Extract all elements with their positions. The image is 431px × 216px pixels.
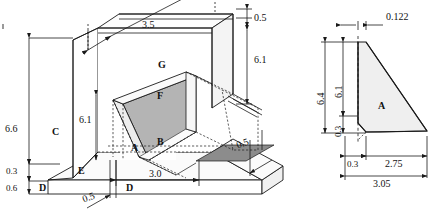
scan-artifact: [2, 24, 4, 29]
side-dim-6_4: 6.4: [316, 93, 326, 106]
iso-dim-3_5: 3.5: [142, 20, 155, 30]
iso-face-label-A: A: [131, 143, 138, 153]
side-face-label-A: A: [378, 101, 385, 111]
stem-top-face: [98, 14, 233, 28]
iso-dim-0_5-top: 0.5: [254, 13, 267, 23]
drawing-canvas: A B C D D E F G 3.5 0.5 6.1 6.1 6.6 0.3 …: [0, 0, 431, 216]
iso-face-label-B: B: [157, 137, 164, 147]
iso-face-label-E: E: [78, 166, 85, 176]
iso-face-label-F: F: [157, 91, 163, 101]
side-dim-6_1: 6.1: [334, 86, 344, 99]
iso-dim-6_6: 6.6: [5, 124, 18, 134]
iso-dim-0_6: 0.6: [6, 184, 17, 193]
side-dim-2_75: 2.75: [385, 159, 403, 169]
counterfort1-right-edge-face: [186, 72, 196, 132]
side-dim-3_05: 3.05: [373, 179, 391, 189]
side-view-geometry: [358, 36, 427, 142]
side-profile-outline: [358, 42, 427, 132]
base-slab-front-face: [48, 180, 262, 194]
iso-dim-6_1-right: 6.1: [254, 55, 267, 65]
side-dim-0_3-vert: 0.3: [334, 126, 343, 137]
iso-dim-3_0: 3.0: [149, 169, 162, 179]
side-dim-0_122: 0.122: [386, 12, 409, 22]
side-dim-0_3-horiz: 0.3: [347, 160, 358, 169]
iso-face-label-D-right: D: [126, 183, 133, 193]
iso-dim-0_3: 0.3: [6, 167, 17, 176]
iso-face-label-D-left: D: [39, 183, 46, 193]
engineering-drawing-svg: [0, 0, 431, 216]
iso-dim-6_1-inner: 6.1: [79, 115, 92, 125]
iso-face-label-C: C: [52, 127, 59, 137]
iso-face-label-G: G: [158, 60, 166, 70]
